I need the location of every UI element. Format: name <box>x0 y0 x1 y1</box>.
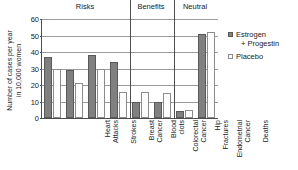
legend-entry-control: Placebo <box>228 52 298 61</box>
y-axis-title-line2: in 10,000 women <box>14 21 23 121</box>
bar-treatment <box>110 62 118 118</box>
y-tick-mark <box>40 118 42 119</box>
y-tick-label: 20 <box>31 81 39 90</box>
plot-area: 0102030405060 <box>41 19 218 119</box>
bar-treatment <box>154 102 162 119</box>
y-tick-label: 30 <box>31 64 39 73</box>
x-axis-label: Strokes <box>130 120 138 170</box>
bar-group <box>174 19 196 118</box>
x-axis-labels: HeartAttacksStrokesBreastCancerBloodclot… <box>41 120 217 170</box>
bar-group <box>42 19 64 118</box>
bar-control <box>97 69 105 119</box>
x-axis-label: Deaths <box>262 120 270 170</box>
y-tick-label: 10 <box>31 97 39 106</box>
legend-swatch-control-icon <box>228 54 233 59</box>
y-axis-title-line1: Number of cases per year <box>6 21 15 121</box>
legend-label-treatment: Estrogen + Progestin <box>236 30 298 48</box>
bar-treatment <box>66 70 74 118</box>
bar-treatment <box>198 34 206 118</box>
bar-group <box>196 19 218 118</box>
bar-control <box>141 92 149 118</box>
bar-control <box>163 93 171 118</box>
bar-control <box>185 110 193 118</box>
legend-entry-treatment: Estrogen + Progestin <box>228 30 298 48</box>
legend: Estrogen + Progestin Placebo <box>228 30 298 65</box>
bar-control <box>53 69 61 119</box>
y-tick-label: 40 <box>31 48 39 57</box>
bar-control <box>75 83 83 118</box>
x-axis-label: EndometrialCancer <box>236 120 252 170</box>
y-tick-label: 60 <box>31 15 39 24</box>
x-axis-label: ColorectalCancer <box>192 120 208 170</box>
bar-group <box>152 19 174 118</box>
x-axis-label: HeartAttacks <box>104 120 120 170</box>
bar-treatment <box>88 55 96 118</box>
bar-treatment <box>132 102 140 119</box>
bar-control <box>119 92 127 118</box>
x-axis-label: Bloodclots <box>170 120 186 170</box>
bar-group <box>130 19 152 118</box>
x-axis-label: BreastCancer <box>148 120 164 170</box>
bar-treatment <box>44 57 52 118</box>
bars-layer <box>42 19 218 118</box>
legend-label-treatment-line2: + Progestin <box>236 39 298 48</box>
legend-label-control-line1: Placebo <box>236 52 298 61</box>
bar-control <box>207 32 215 118</box>
y-tick-label: 50 <box>31 31 39 40</box>
y-tick-label: 0 <box>35 114 39 123</box>
bar-group <box>108 19 130 118</box>
legend-swatch-treatment-icon <box>228 32 233 37</box>
bar-group <box>86 19 108 118</box>
bar-treatment <box>176 111 184 118</box>
y-axis-title: Number of cases per year in 10,000 women <box>6 21 23 121</box>
bar-chart: Risks Benefits Neutral Number of cases p… <box>0 0 298 170</box>
bar-group <box>64 19 86 118</box>
group-header-neutral: Neutral <box>155 2 235 11</box>
legend-label-control: Placebo <box>236 52 298 61</box>
legend-label-treatment-line1: Estrogen <box>236 30 298 39</box>
x-axis-label: HipFractures <box>214 120 230 170</box>
group-header-band: Risks Benefits Neutral <box>0 0 298 20</box>
